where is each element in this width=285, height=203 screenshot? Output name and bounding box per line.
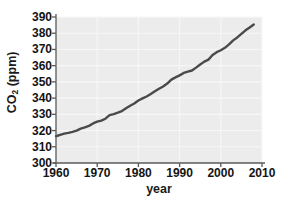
y-axis-tick-label: 310: [22, 141, 52, 153]
x-axis-tick-label: 2010: [249, 167, 276, 179]
y-axis-tick-label: 340: [22, 92, 52, 104]
x-axis-title: year: [56, 182, 262, 196]
y-axis-tick-label: 330: [22, 108, 52, 120]
y-axis-tick-label: 370: [22, 43, 52, 55]
y-axis-tick-label: 390: [22, 11, 52, 23]
x-axis-tick-label: 1960: [43, 167, 70, 179]
x-axis-tick-label: 2000: [207, 167, 234, 179]
y-axis-tick-label: 380: [22, 27, 52, 39]
y-axis-tick-label: 360: [22, 60, 52, 72]
y-axis-tick-label: 320: [22, 125, 52, 137]
co2-chart-figure: 300310320330340350360370380390 196019701…: [0, 0, 285, 203]
x-axis-tick-labels: 196019701980199020002010: [0, 167, 285, 183]
x-axis-tick-label: 1990: [166, 167, 193, 179]
x-axis-tick-label: 1970: [84, 167, 111, 179]
x-axis-tick-label: 1980: [125, 167, 152, 179]
y-axis-tick-label: 350: [22, 76, 52, 88]
